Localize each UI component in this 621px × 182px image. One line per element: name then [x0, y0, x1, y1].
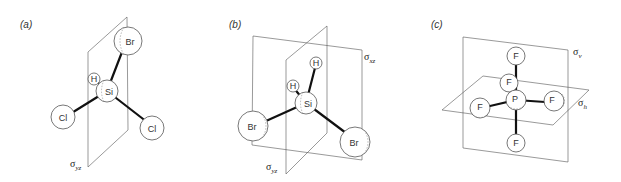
svg-text:Cl: Cl	[59, 113, 68, 123]
atom-f-left: F	[470, 98, 490, 118]
atom-h: H	[88, 73, 100, 85]
svg-text:H: H	[313, 58, 320, 68]
atom-f-right: F	[544, 91, 565, 111]
atom-br: Br	[114, 27, 142, 55]
svg-text:H: H	[290, 81, 297, 91]
atom-si: Si	[295, 92, 317, 114]
plane-label-xz: σxz	[364, 51, 375, 65]
atom-f-bottom: F	[507, 134, 525, 152]
panel-a: (a) σyz Br Si H Cl Cl	[20, 17, 164, 172]
svg-text:F: F	[506, 77, 512, 87]
panel-b-label: (b)	[229, 19, 241, 30]
svg-text:H: H	[91, 74, 98, 84]
svg-text:F: F	[513, 138, 519, 148]
svg-text:Br: Br	[126, 37, 135, 47]
atom-f-back: F	[500, 74, 518, 92]
panel-c-label: (c)	[431, 19, 443, 30]
svg-text:F: F	[549, 95, 555, 105]
svg-text:Br: Br	[350, 138, 359, 148]
atom-cl-right: Cl	[140, 116, 164, 140]
atom-br-left: Br	[238, 111, 268, 141]
atom-cl-left: Cl	[51, 105, 75, 129]
svg-text:F: F	[477, 102, 483, 112]
plane-label-yz: σyz	[70, 158, 81, 172]
svg-text:P: P	[512, 94, 518, 104]
panel-c: (c) σv σh F P F F	[431, 19, 589, 162]
plane-label-yz: σyz	[266, 161, 277, 175]
svg-text:Br: Br	[248, 122, 257, 132]
panel-a-label: (a)	[20, 19, 32, 30]
plane-label-h: σh	[578, 97, 587, 111]
atom-p: P	[506, 90, 526, 110]
atom-f-top: F	[507, 47, 525, 65]
panel-b: (b) σxz σyz Br Br Si H	[229, 19, 375, 175]
atom-si: Si	[96, 80, 118, 102]
svg-text:Si: Si	[105, 87, 113, 97]
svg-text:Si: Si	[304, 99, 312, 109]
atom-h-left: H	[287, 80, 299, 92]
atom-br-right: Br	[340, 127, 370, 157]
svg-text:F: F	[513, 51, 519, 61]
symmetry-planes-diagram: (a) σyz Br Si H Cl Cl	[0, 0, 621, 182]
svg-text:Cl: Cl	[148, 124, 157, 134]
plane-label-v: σv	[573, 46, 582, 60]
atom-h-top: H	[310, 57, 322, 69]
